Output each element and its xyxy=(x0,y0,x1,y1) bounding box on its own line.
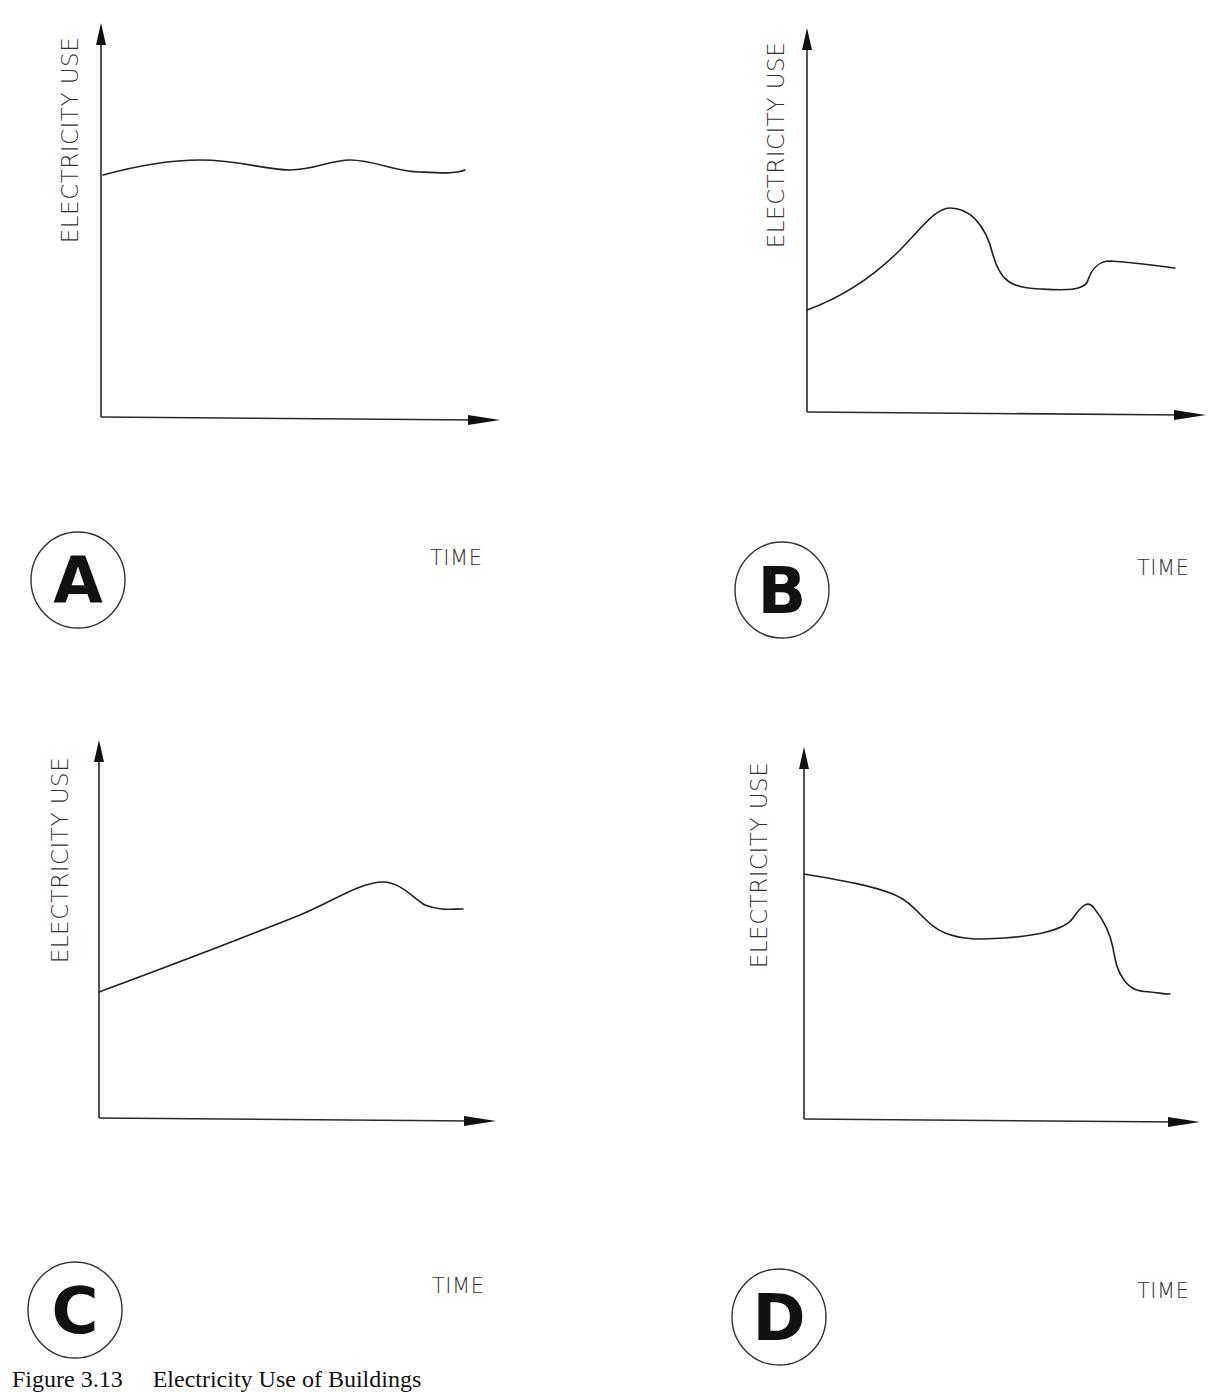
data-curve xyxy=(103,160,465,175)
data-curve xyxy=(99,882,463,992)
panel-badge-c: C xyxy=(28,1262,122,1358)
x-axis xyxy=(101,417,478,420)
chart-panel-b: ELECTRICITY USETIMEB xyxy=(735,28,1206,638)
panel-badge-d: D xyxy=(732,1269,826,1365)
chart-panel-a: ELECTRICITY USETIMEA xyxy=(31,23,500,628)
y-axis-label: ELECTRICITY USE xyxy=(57,37,83,243)
x-axis-label: TIME xyxy=(1137,556,1189,580)
x-axis xyxy=(99,1118,474,1121)
x-axis xyxy=(804,1119,1178,1122)
x-axis-label: TIME xyxy=(1137,1279,1189,1303)
chart-panel-d: ELECTRICITY USETIMED xyxy=(732,747,1200,1365)
panels-container: ELECTRICITY USETIMEAELECTRICITY USETIMEB… xyxy=(28,23,1206,1365)
badge-letter: C xyxy=(52,1274,99,1348)
y-axis-label: ELECTRICITY USE xyxy=(746,762,772,968)
x-axis-label: TIME xyxy=(430,546,482,570)
x-axis xyxy=(807,412,1184,415)
y-axis-arrow-icon xyxy=(96,23,106,45)
y-axis-arrow-icon xyxy=(799,747,809,769)
x-axis-arrow-icon xyxy=(468,415,500,425)
x-axis-label: TIME xyxy=(432,1274,484,1298)
y-axis-label: ELECTRICITY USE xyxy=(47,757,73,963)
chart-panel-c: ELECTRICITY USETIMEC xyxy=(28,740,496,1358)
y-axis-arrow-icon xyxy=(94,740,104,762)
figure-caption: Figure 3.13 Electricity Use of Buildings xyxy=(12,1366,421,1393)
data-curve xyxy=(804,874,1170,994)
data-curve xyxy=(807,208,1175,310)
x-axis-arrow-icon xyxy=(1174,410,1206,420)
panel-badge-b: B xyxy=(735,542,829,638)
badge-letter: D xyxy=(752,1281,805,1355)
y-axis-arrow-icon xyxy=(802,28,812,50)
x-axis-arrow-icon xyxy=(464,1116,496,1126)
badge-letter: B xyxy=(758,554,807,628)
panel-badge-a: A xyxy=(31,532,125,628)
badge-letter: A xyxy=(53,544,103,618)
y-axis-label: ELECTRICITY USE xyxy=(763,42,789,248)
x-axis-arrow-icon xyxy=(1168,1117,1200,1127)
